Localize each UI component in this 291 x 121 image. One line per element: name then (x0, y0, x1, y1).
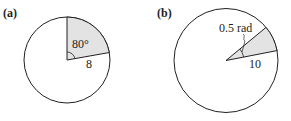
angle-label-a: 80° (72, 37, 89, 51)
panel-a-label: (a) (3, 6, 17, 20)
panel-b: (b) 0.5 rad 10 (157, 6, 278, 113)
angle-label-b: 0.5 rad (219, 21, 252, 35)
radius-label-b: 10 (249, 57, 261, 71)
figure-canvas: (a) 80° 8 (b) 0.5 rad 10 (0, 0, 291, 121)
panel-a: (a) 80° 8 (3, 6, 110, 103)
radius-label-a: 8 (86, 57, 92, 71)
panel-b-label: (b) (157, 6, 172, 20)
